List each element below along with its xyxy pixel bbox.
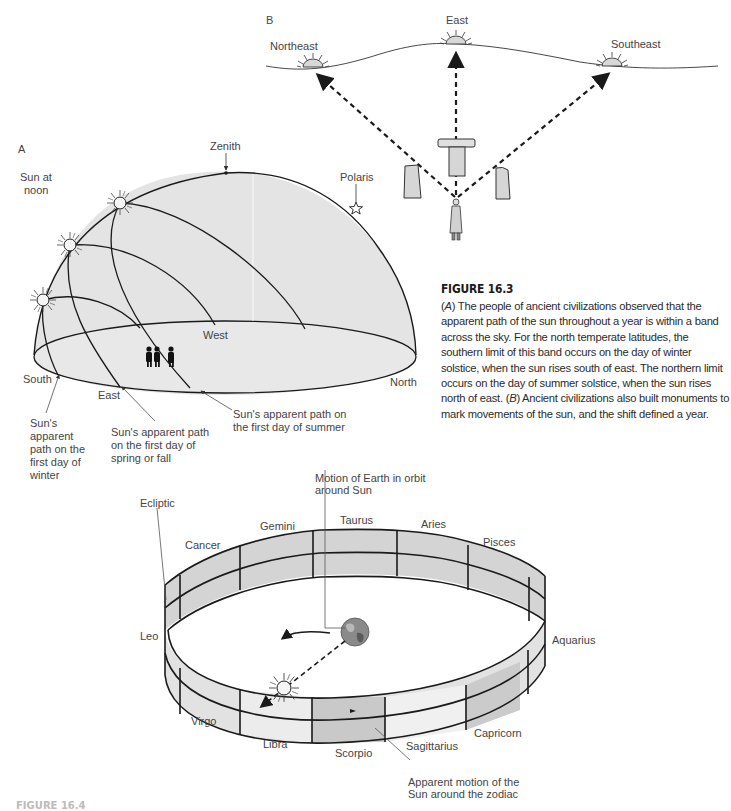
southeast-sun-icon xyxy=(596,52,628,66)
constellation-pisces: Pisces xyxy=(483,536,516,548)
zenith-point xyxy=(224,171,228,175)
southeast-label: Southeast xyxy=(611,38,661,50)
earth-orbit-arrow xyxy=(283,632,330,638)
figure-caption-body: (A) The people of ancient civilizations … xyxy=(441,299,731,422)
constellation-aquarius: Aquarius xyxy=(552,634,596,646)
ecliptic-label: Ecliptic xyxy=(140,497,175,509)
ecliptic-pointer xyxy=(157,508,166,600)
person-observer-icon xyxy=(450,199,462,240)
sightline-southeast xyxy=(458,75,607,197)
north-label: North xyxy=(390,376,417,388)
panel-a-label: A xyxy=(18,143,26,155)
west-label: West xyxy=(203,329,228,341)
east-label-b: East xyxy=(446,14,468,26)
sun-motion-label-line1: Apparent motion of the xyxy=(408,776,519,788)
constellation-sagittarius: Sagittarius xyxy=(406,740,458,752)
svg-text:first day of: first day of xyxy=(30,456,82,468)
south-label: South xyxy=(23,373,52,385)
svg-text:apparent: apparent xyxy=(30,430,73,442)
svg-text:Sun's apparent path on: Sun's apparent path on xyxy=(233,408,346,420)
east-label-a: East xyxy=(98,389,120,401)
polaris-star-icon xyxy=(350,202,363,214)
figure-caption: FIGURE 16.3 (A) The people of ancient ci… xyxy=(441,281,731,422)
sun-motion-label-line2: Sun around the zodiac xyxy=(408,788,519,800)
figure-title: FIGURE 16.3 xyxy=(441,281,679,296)
spring-fall-path-caption: Sun's apparent path on the first day of … xyxy=(111,426,209,464)
east-sun-icon xyxy=(440,30,472,44)
caption-text-a: The people of ancient civilizations obse… xyxy=(441,300,723,404)
summer-path-caption: Sun's apparent path on the first day of … xyxy=(233,408,346,433)
sun-at-noon-label-line1: Sun at xyxy=(20,171,52,183)
northeast-sun-icon xyxy=(297,53,329,67)
svg-text:spring or fall: spring or fall xyxy=(111,452,171,464)
sun-at-noon-label-line2: noon xyxy=(24,184,48,196)
winter-path-caption: Sun's apparent path on the first day of … xyxy=(29,417,85,481)
polaris-label: Polaris xyxy=(340,171,374,183)
constellation-libra: Libra xyxy=(263,738,288,750)
constellation-aries: Aries xyxy=(421,518,447,530)
caption-label-b: B xyxy=(509,392,516,404)
panel-b-label: B xyxy=(266,14,273,26)
constellation-taurus: Taurus xyxy=(340,514,374,526)
svg-text:the first day of summer: the first day of summer xyxy=(233,421,345,433)
constellation-gemini: Gemini xyxy=(260,520,295,532)
earth-motion-label-line1: Motion of Earth in orbit xyxy=(315,472,426,484)
svg-text:Sun's apparent path: Sun's apparent path xyxy=(111,426,209,438)
constellation-virgo: Virgo xyxy=(191,715,216,727)
svg-text:winter: winter xyxy=(29,469,60,481)
zenith-label: Zenith xyxy=(210,140,241,152)
svg-text:path on the: path on the xyxy=(30,443,85,455)
constellation-leo: Leo xyxy=(140,630,158,642)
constellation-cancer: Cancer xyxy=(185,539,221,551)
next-figure-title-cutoff: FIGURE 16.4 xyxy=(16,800,86,811)
svg-text:Sun's: Sun's xyxy=(30,417,58,429)
svg-text:on the first day of: on the first day of xyxy=(111,439,196,451)
panel-a: A Zenith Polaris xyxy=(18,140,417,481)
caption-label-a: A xyxy=(444,300,451,312)
constellation-capricorn: Capricorn xyxy=(474,727,522,739)
constellation-scorpio: Scorpio xyxy=(335,747,372,759)
equinox-pointer xyxy=(122,387,155,421)
zodiac-diagram: Motion of Earth in orbit around Sun Ecli… xyxy=(140,470,596,800)
earth-motion-label-line2: around Sun xyxy=(315,484,372,496)
northeast-label: Northeast xyxy=(270,40,318,52)
